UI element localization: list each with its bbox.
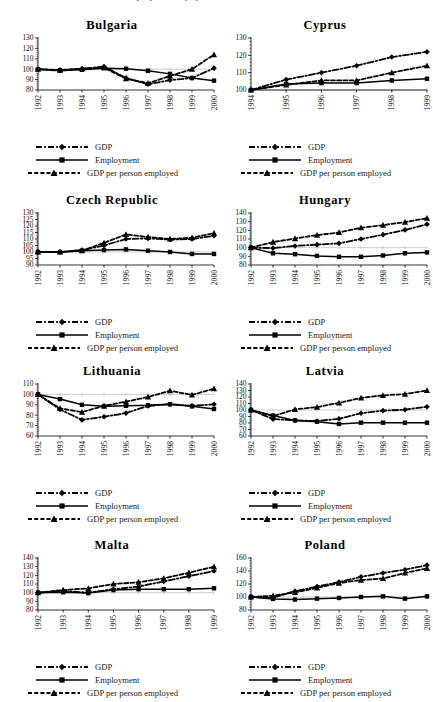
data-point-marker [293,597,297,601]
x-axis-tick-label: 1998 [387,95,396,110]
legend-item-employment[interactable]: Employment [4,673,220,686]
chart-title: Czech Republic [4,193,220,208]
chart-panel-lithuania: Lithuania6070809010011019921993199419951… [4,364,220,539]
legend-item-gdp-per-person[interactable]: GDP per person employed [217,166,433,179]
plot-svg: 8010012014016019921993199419951996199719… [217,554,433,658]
legend-item-gdp[interactable]: GDP [4,660,220,673]
x-axis-tick-label: 1995 [109,615,118,630]
data-point-marker [212,78,216,82]
x-axis-tick-label: 1994 [78,95,87,110]
x-axis-tick-label: 1994 [291,615,300,630]
x-axis-tick-label: 1992 [34,270,43,285]
legend-label: Employment [95,500,139,512]
legend-item-gdp-per-person[interactable]: GDP per person employed [217,341,433,354]
data-point-marker [314,242,320,248]
data-point-marker [337,255,341,259]
y-axis-tick-label: 110 [23,579,34,588]
legend-item-employment[interactable]: Employment [217,328,433,341]
x-axis-tick-label: 1993 [56,270,65,285]
legend-key-square-icon [34,674,90,686]
plot-area: 6070809010011019921993199419951996199719… [4,380,220,484]
data-point-marker [168,250,172,254]
x-axis-tick-label: 1997 [159,615,168,630]
x-axis-tick-label: 1992 [34,95,43,110]
legend-item-gdp[interactable]: GDP [4,140,220,153]
legend-item-employment[interactable]: Employment [4,153,220,166]
x-axis-tick-label: 1992 [247,615,256,630]
data-point-marker [424,49,430,55]
legend-item-gdp[interactable]: GDP [217,486,433,499]
x-axis-tick-label: 1999 [188,95,197,110]
y-axis-tick-label: 100 [235,85,246,94]
x-axis-tick-label: 1995 [100,441,109,456]
x-axis-tick-label: 1994 [84,615,93,630]
legend-item-employment[interactable]: Employment [217,673,433,686]
y-axis-tick-label: 140 [22,554,33,562]
legend-item-gdp-per-person[interactable]: GDP per person employed [217,512,433,525]
series-gdp-per-person-employed [248,63,430,93]
legend-key-diamond-icon [247,316,303,328]
legend-item-gdp-per-person[interactable]: GDP per person employed [4,166,220,179]
legend-item-gdp[interactable]: GDP [217,660,433,673]
data-point-marker [336,416,342,422]
y-axis-tick-label: 140 [235,380,246,388]
legend-label: Employment [308,500,352,512]
y-axis-tick-label: 140 [235,566,246,575]
legend-item-employment[interactable]: Employment [4,499,220,512]
data-point-marker [381,420,385,424]
chart-panel-bulgaria: Bulgaria80901001101201301992199319941995… [4,18,220,193]
chart-legend: GDPEmploymentGDP per person employed [4,660,220,699]
data-point-marker [358,236,364,242]
figure-sheet: GDP per person employed Bulgaria80901001… [0,0,433,702]
data-point-marker [403,251,407,255]
legend-label: GDP per person employed [87,687,178,699]
data-point-marker [337,596,341,600]
plot-svg: 100110120130199419951996199719981999 [217,34,433,138]
plot-area: 6070809010011012013014019921993199419951… [217,380,433,484]
legend-item-gdp[interactable]: GDP [4,486,220,499]
data-point-marker [212,252,216,256]
legend-key-square-icon [247,154,303,166]
legend-item-gdp-per-person[interactable]: GDP per person employed [4,341,220,354]
legend-item-gdp[interactable]: GDP [4,315,220,328]
data-point-marker [359,420,363,424]
chart-panel-cyprus: Cyprus1001101201301994199519961997199819… [217,18,433,193]
legend-item-employment[interactable]: Employment [217,153,433,166]
x-axis-tick-label: 1996 [122,441,131,456]
series-gdp [248,404,430,424]
y-axis-tick-label: 100 [22,588,33,597]
data-point-marker [403,596,407,600]
x-axis-tick-label: 1998 [166,270,175,285]
legend-item-employment[interactable]: Employment [4,328,220,341]
legend-key-diamond-icon [247,487,303,499]
legend-label: GDP [95,661,112,673]
data-point-marker [123,410,129,416]
data-point-marker [402,407,408,413]
chart-title: Latvia [217,364,433,379]
legend-item-gdp[interactable]: GDP [217,140,433,153]
y-axis-tick-label: 80 [26,605,34,614]
data-point-marker [79,417,85,423]
y-axis-tick-label: 100 [235,592,246,601]
legend-key-diamond-icon [34,316,90,328]
y-axis-tick-label: 120 [235,226,246,235]
x-axis-tick-label: 1998 [379,270,388,285]
y-axis-tick-label: 80 [239,605,247,614]
legend-label: GDP [308,141,325,153]
legend-label: GDP [308,661,325,673]
x-axis-tick-label: 1999 [401,615,410,630]
legend-key-diamond-icon [247,141,303,153]
data-point-marker [315,254,319,258]
legend-key-triangle-icon [26,342,82,354]
legend-item-gdp-per-person[interactable]: GDP per person employed [4,686,220,699]
legend-item-gdp[interactable]: GDP [217,315,433,328]
data-point-marker [380,408,386,414]
plot-svg: 8090100110120130140199219931994199519961… [217,209,433,313]
y-axis-tick-label: 90 [26,400,34,409]
legend-item-employment[interactable]: Employment [217,499,433,512]
y-axis-tick-label: 160 [235,554,246,562]
legend-item-gdp-per-person[interactable]: GDP per person employed [4,512,220,525]
legend-item-gdp-per-person[interactable]: GDP per person employed [217,686,433,699]
data-point-marker [58,397,62,401]
x-axis-tick-label: 1998 [379,615,388,630]
